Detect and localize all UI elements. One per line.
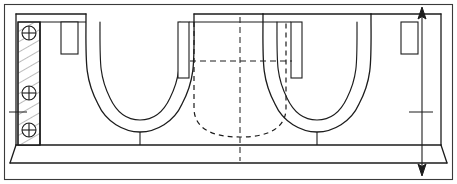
slot-right xyxy=(401,22,418,54)
center-strip-right xyxy=(291,22,302,78)
fastener-bottom xyxy=(22,123,36,137)
fastener-top xyxy=(22,26,36,40)
slot-left xyxy=(61,22,78,54)
technical-drawing-canvas xyxy=(0,0,457,184)
fastener-middle xyxy=(22,86,36,100)
center-strip-left xyxy=(178,22,189,78)
cross-section-drawing xyxy=(0,0,457,184)
